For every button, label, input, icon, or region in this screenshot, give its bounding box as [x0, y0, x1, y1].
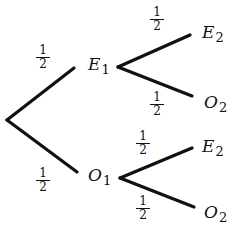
node-subscript: 2: [219, 100, 227, 115]
edge-root-e1: [7, 68, 74, 120]
node-label: O: [204, 92, 218, 112]
prob-denominator: 2: [36, 181, 50, 193]
prob-e1-e2: 1 2: [150, 7, 164, 32]
prob-o1-o2: 1 2: [136, 196, 150, 221]
prob-denominator: 2: [150, 20, 164, 32]
prob-o1-e2: 1 2: [136, 131, 150, 156]
prob-denominator: 2: [150, 105, 164, 117]
prob-denominator: 2: [36, 58, 50, 70]
edge-e1-e2: [118, 35, 190, 67]
node-o1-e2: E2: [202, 136, 224, 159]
edge-o1-o2: [120, 178, 194, 207]
prob-root-o1: 1 2: [36, 168, 50, 193]
node-subscript: 1: [101, 62, 109, 77]
node-label: E: [202, 136, 214, 156]
probability-tree-diagram: 1 2 1 2 E1 O1 1 2 1 2 1 2 1 2 E2 O2 E2 O…: [0, 0, 234, 245]
edge-root-o1: [7, 120, 77, 172]
node-subscript: 1: [103, 173, 111, 188]
node-subscript: 2: [215, 30, 223, 45]
node-label: E: [202, 22, 214, 42]
node-e1-o2: O2: [204, 92, 227, 115]
prob-root-e1: 1 2: [36, 45, 50, 70]
prob-denominator: 2: [136, 209, 150, 221]
node-subscript: 2: [215, 144, 223, 159]
tree-edges: [0, 0, 234, 245]
node-label: E: [88, 54, 100, 74]
node-subscript: 2: [219, 210, 227, 225]
node-o1: O1: [88, 165, 111, 188]
prob-denominator: 2: [136, 144, 150, 156]
node-label: O: [88, 165, 102, 185]
node-label: O: [204, 202, 218, 222]
node-e1-e2: E2: [202, 22, 224, 45]
prob-e1-o2: 1 2: [150, 92, 164, 117]
node-o1-o2: O2: [204, 202, 227, 225]
edge-o1-e2: [120, 148, 192, 178]
node-e1: E1: [88, 54, 110, 77]
